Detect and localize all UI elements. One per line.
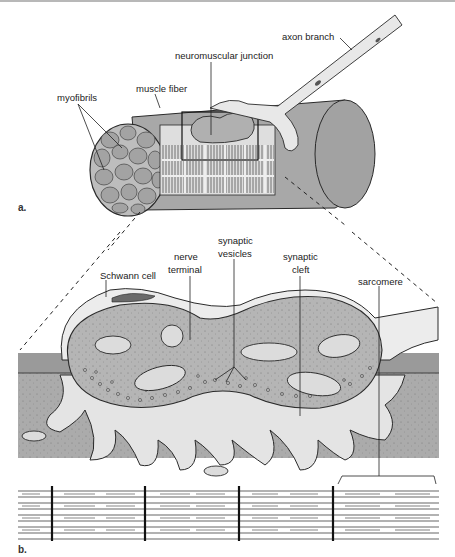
label-sarcomere: sarcomere — [358, 276, 403, 287]
label-myofibrils: myofibrils — [57, 92, 97, 103]
neuromuscular-diagram: axon branch neuromuscular junction muscl… — [0, 0, 455, 557]
label-schwann-cell: Schwann cell — [100, 270, 156, 281]
panel-b: synaptic vesicles nerve terminal Schwann… — [18, 232, 439, 555]
label-nerve-terminal-2: terminal — [168, 264, 202, 275]
striations — [162, 145, 274, 193]
label-nerve-terminal-1: nerve — [174, 251, 198, 262]
projection-left — [108, 212, 140, 250]
label-muscle-fiber: muscle fiber — [136, 83, 187, 94]
myofibril-striations — [18, 486, 439, 541]
panel-label-b: b. — [18, 544, 27, 555]
panel-a: axon branch neuromuscular junction muscl… — [18, 15, 402, 250]
label-axon-branch: axon branch — [282, 31, 334, 42]
label-synaptic-cleft-1: synaptic — [283, 251, 318, 262]
nerve-terminal-a — [191, 113, 254, 143]
label-synaptic-cleft-2: cleft — [292, 264, 310, 275]
label-synaptic-vesicles-1: synaptic — [218, 235, 253, 246]
label-synaptic-vesicles-2: vesicles — [218, 248, 252, 259]
label-neuromuscular-junction: neuromuscular junction — [175, 50, 273, 61]
muscle-fiber-end — [315, 100, 375, 208]
panel-label-a: a. — [18, 202, 27, 213]
